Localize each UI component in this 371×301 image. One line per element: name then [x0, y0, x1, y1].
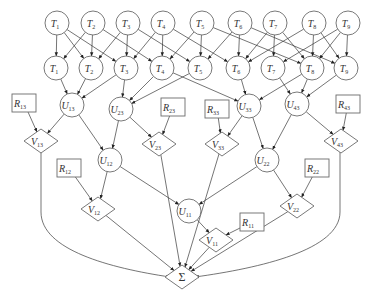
nodes-layer: T1T2T3T4T5T6T7T8T9T1T2T3T4T5T6T7T8T9U13U… — [12, 11, 360, 289]
node-v22: V22 — [280, 194, 314, 218]
edge-t3_top-to-t2 — [99, 32, 121, 58]
node-r12: R12 — [57, 159, 81, 177]
node-t3-top: T3 — [116, 11, 140, 35]
edge-r22-to-v22 — [302, 177, 313, 197]
node-u22: U22 — [255, 148, 279, 172]
node-t6-top: T6 — [228, 11, 252, 35]
edge-u33-to-u22 — [253, 117, 263, 148]
edge-u13-to-u12 — [79, 115, 103, 150]
edge-u33-to-v33 — [228, 116, 242, 136]
node-t3: T3 — [114, 56, 138, 80]
node-t2: T2 — [79, 56, 103, 80]
edge-t7-to-u43 — [280, 78, 291, 94]
node-v43: V43 — [324, 129, 358, 153]
node-r11: R11 — [240, 213, 264, 231]
edge-u22-to-v22 — [274, 170, 292, 198]
node-v12: V12 — [81, 197, 115, 221]
edge-r13-to-v13 — [28, 112, 37, 132]
edge-t1-to-u13 — [61, 79, 67, 94]
node-u12: U12 — [98, 148, 122, 172]
edge-r33-to-v33 — [218, 118, 220, 133]
node-label: Σ — [179, 270, 186, 284]
node-t7: T7 — [261, 56, 285, 80]
hierarchical-network-diagram: T1T2T3T4T5T6T7T8T9T1T2T3T4T5T6T7T8T9U13U… — [0, 0, 371, 301]
edge-u43-to-v43 — [306, 112, 333, 135]
node-t2-top: T2 — [81, 11, 105, 35]
edge-t7_top-to-t8 — [283, 32, 305, 58]
node-r13: R13 — [12, 94, 36, 112]
edge-u23-to-u12 — [113, 121, 119, 149]
edge-t2_top-to-t2 — [92, 35, 93, 56]
edge-r43-to-v43 — [343, 113, 346, 130]
edge-t7_top-to-t6 — [246, 32, 268, 58]
edge-t3_top-to-t3 — [127, 35, 128, 56]
edge-t9_top-to-t9 — [347, 35, 348, 56]
node-r33: R33 — [205, 100, 229, 118]
node-t9: T9 — [334, 56, 358, 80]
edge-t5_top-to-t4 — [170, 32, 194, 59]
edge-t9_top-to-t8 — [319, 32, 340, 58]
edge-t6_top-to-t5 — [208, 32, 232, 59]
edge-t6_top-to-t9 — [251, 28, 335, 64]
node-u11: U11 — [177, 199, 201, 223]
edge-t6-to-u33 — [241, 80, 245, 95]
node-v33: V33 — [205, 132, 239, 156]
edge-u22-to-u11 — [199, 167, 257, 205]
node-t8: T8 — [300, 56, 324, 80]
node-t9-top: T9 — [336, 11, 360, 35]
edge-t4_top-to-t3 — [134, 32, 156, 58]
node-t5: T5 — [188, 56, 212, 80]
edge-t3-to-u23 — [122, 80, 124, 97]
edge-u43-to-u22 — [273, 115, 292, 150]
node-u23: U23 — [109, 97, 133, 121]
node-t4-top: T4 — [151, 11, 175, 35]
node-t7-top: T7 — [263, 11, 287, 35]
node-t4: T4 — [150, 56, 174, 80]
edge-r11-to-v11 — [226, 228, 240, 235]
node-sum: Σ — [165, 265, 199, 289]
node-u13: U13 — [60, 93, 84, 117]
node-u33: U33 — [237, 94, 261, 118]
edge-r12-to-v12 — [75, 177, 92, 201]
edge-t5_top-to-t8 — [213, 28, 301, 64]
node-t1-top: T1 — [45, 11, 69, 35]
edge-u13-to-v13 — [47, 114, 64, 133]
edge-u12-to-u11 — [120, 167, 179, 205]
node-v23: V23 — [142, 132, 176, 156]
node-t5-top: T5 — [190, 11, 214, 35]
node-r43: R43 — [336, 95, 360, 113]
node-u43: U43 — [285, 92, 309, 116]
node-r22: R22 — [305, 159, 329, 177]
edge-u11-to-v11 — [197, 220, 209, 233]
edge-u12-to-v12 — [101, 172, 108, 199]
node-r23: R23 — [161, 98, 185, 116]
edge-v12-to-sum — [106, 215, 174, 270]
node-t1: T1 — [44, 56, 68, 80]
edge-t4-to-u23 — [129, 76, 153, 100]
edge-t5_top-to-t5 — [201, 35, 202, 56]
node-t6: T6 — [226, 56, 250, 80]
edge-t8-to-u43 — [302, 79, 308, 93]
edge-r23-to-v23 — [163, 116, 170, 135]
node-t8-top: T8 — [302, 11, 326, 35]
node-v13: V13 — [24, 129, 58, 153]
edge-u23-to-v23 — [130, 117, 152, 137]
edges-layer — [28, 28, 347, 277]
edge-t8_top-to-t8 — [313, 35, 314, 56]
edge-t2-to-u13 — [77, 79, 85, 95]
